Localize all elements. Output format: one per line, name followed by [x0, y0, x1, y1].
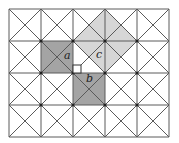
- label-c: c: [96, 49, 102, 60]
- label-a: a: [64, 50, 71, 61]
- right-angle-mark: [73, 65, 81, 73]
- label-b: b: [86, 73, 93, 84]
